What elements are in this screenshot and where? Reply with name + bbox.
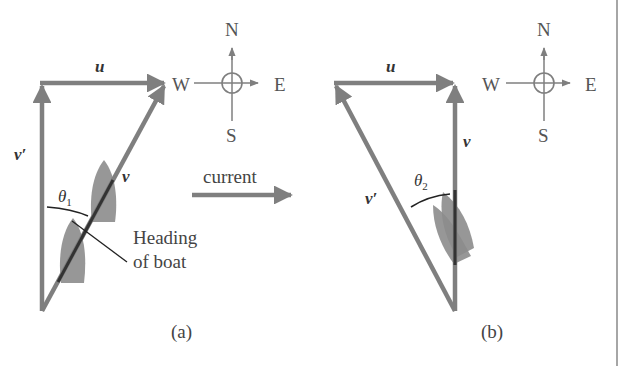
diagram-canvas	[0, 0, 622, 366]
compass-a-west: W	[172, 75, 190, 94]
label-u-a: u	[95, 58, 104, 75]
compass-b-south: S	[538, 126, 549, 145]
panel-b-diagram	[334, 83, 474, 311]
compass-b-north: N	[537, 20, 551, 39]
heading-label-line1: Heading	[133, 228, 197, 247]
compass-a	[194, 48, 258, 121]
label-theta2: θ2	[414, 172, 428, 192]
caption-a: (a)	[171, 322, 192, 341]
caption-b: (b)	[481, 322, 503, 341]
label-v-a: v	[122, 168, 130, 185]
label-v-b: v	[463, 133, 471, 150]
label-u-b: u	[386, 58, 395, 75]
label-theta1: θ1	[58, 188, 72, 208]
compass-b-west: W	[482, 75, 500, 94]
label-v-prime-a: v′	[14, 146, 26, 163]
vector-v-prime-b	[336, 86, 455, 311]
compass-b-east: E	[585, 75, 597, 94]
compass-a-north: N	[225, 20, 239, 39]
compass-a-east: E	[274, 75, 286, 94]
heading-label-line2: of boat	[133, 252, 186, 271]
label-v-prime-b: v′	[365, 190, 377, 207]
compass-b	[506, 48, 570, 121]
compass-a-south: S	[226, 126, 237, 145]
current-label: current	[203, 167, 257, 186]
